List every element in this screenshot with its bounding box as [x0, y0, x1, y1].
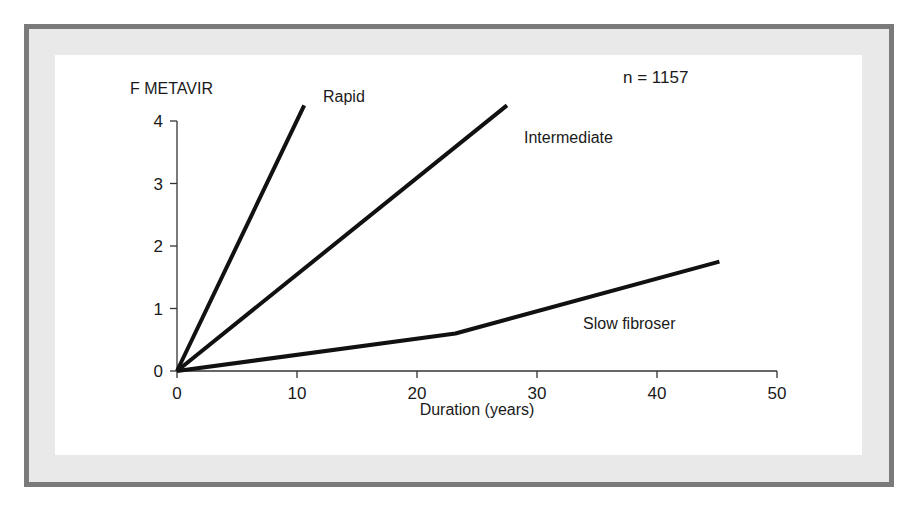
y-axis-title: F METAVIR: [130, 80, 213, 97]
y-tick-label: 0: [154, 362, 163, 381]
y-tick-label: 4: [154, 112, 163, 131]
fibrosis-progression-chart: 0123401020304050 F METAVIR Duration (yea…: [0, 0, 914, 512]
y-tick-label: 3: [154, 175, 163, 194]
x-axis-title: Duration (years): [420, 401, 535, 418]
y-tick-label: 1: [154, 300, 163, 319]
series-label-intermediate: Intermediate: [524, 129, 613, 146]
series-line-rapid: [177, 105, 304, 371]
x-tick-label: 50: [768, 384, 787, 403]
x-tick-label: 40: [648, 384, 667, 403]
series-label-rapid: Rapid: [323, 88, 365, 105]
series-label-slow-fibroser: Slow fibroser: [583, 315, 676, 332]
x-tick-label: 10: [288, 384, 307, 403]
y-tick-label: 2: [154, 237, 163, 256]
x-tick-label: 0: [172, 384, 181, 403]
sample-size-annotation: n = 1157: [623, 68, 688, 87]
axes: 0123401020304050: [154, 112, 787, 403]
